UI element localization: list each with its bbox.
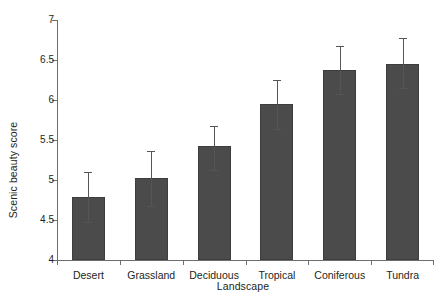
scenic-beauty-bar-chart: Scenic beauty score 44.555.566.57 Desert…: [0, 0, 441, 304]
x-tick-mark: [183, 260, 184, 265]
y-axis-title: Scenic beauty score: [0, 0, 26, 304]
y-tick-label: 7: [48, 13, 54, 26]
y-tick-label: 4.5: [40, 213, 54, 226]
y-tick-label: 6.5: [40, 53, 54, 66]
error-bar-line: [340, 46, 341, 93]
y-tick-label: 5.5: [40, 133, 54, 146]
error-bar-cap-upper: [210, 126, 218, 127]
y-axis-line: [57, 20, 58, 260]
error-bar-cap-lower: [273, 129, 281, 130]
x-tick-mark: [57, 260, 58, 265]
x-tick-mark: [308, 260, 309, 265]
error-bar-cap-lower: [147, 206, 155, 207]
bar: [386, 64, 419, 260]
error-bar-cap-upper: [84, 172, 92, 173]
error-bar-line: [277, 80, 278, 129]
error-bar-cap-lower: [84, 222, 92, 223]
plot-area: 44.555.566.57 DesertGrasslandDeciduousTr…: [57, 20, 434, 260]
error-bar-cap-upper: [399, 38, 407, 39]
error-bar-cap-upper: [336, 46, 344, 47]
x-tick-mark: [120, 260, 121, 265]
error-bar-cap-upper: [147, 151, 155, 152]
bar: [323, 70, 356, 260]
error-bar-cap-lower: [399, 88, 407, 89]
error-bar-line: [403, 38, 404, 88]
error-bar-cap-lower: [210, 170, 218, 171]
y-tick-label: 5: [48, 173, 54, 186]
error-bar-cap-upper: [273, 80, 281, 81]
y-tick-label: 4: [48, 253, 54, 266]
error-bar-line: [151, 151, 152, 205]
x-tick-mark: [433, 260, 434, 265]
x-tick-mark: [246, 260, 247, 265]
x-axis-title: Landscape: [45, 280, 441, 292]
error-bar-line: [214, 126, 215, 170]
y-tick-label: 6: [48, 93, 54, 106]
error-bar-cap-lower: [336, 94, 344, 95]
error-bar-line: [88, 172, 89, 222]
y-axis-title-text: Scenic beauty score: [7, 122, 19, 218]
x-tick-mark: [371, 260, 372, 265]
